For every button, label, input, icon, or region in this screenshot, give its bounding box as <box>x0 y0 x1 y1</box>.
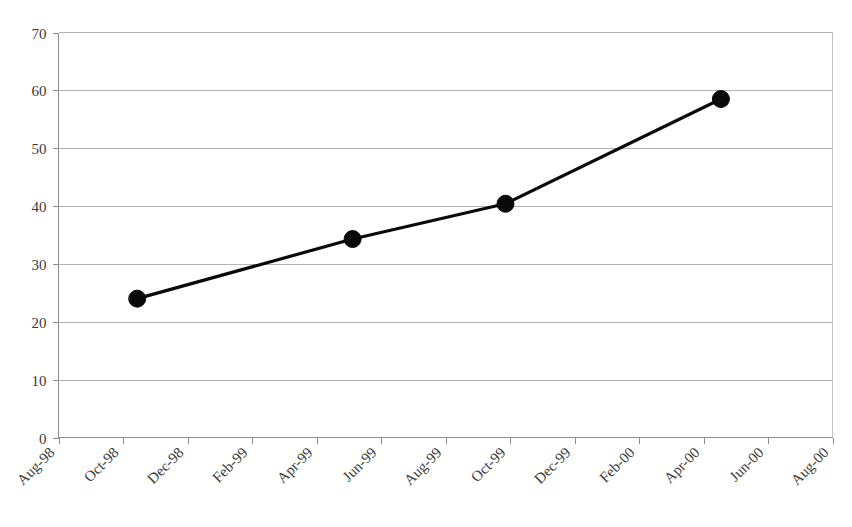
chart-background <box>0 0 852 527</box>
chart-canvas: 010203040506070 Aug-98Oct-98Dec-98Feb-99… <box>0 0 852 527</box>
data-point-marker <box>129 290 146 307</box>
y-axis-tick-label: 60 <box>32 83 47 99</box>
y-axis-tick-label: 20 <box>32 315 47 331</box>
y-axis-tick-label: 10 <box>32 373 47 389</box>
y-axis-tick-label: 70 <box>32 26 47 42</box>
y-axis-tick-label: 50 <box>32 141 47 157</box>
data-point-marker <box>712 91 729 108</box>
data-point-marker <box>344 231 361 248</box>
y-axis-tick-label: 30 <box>32 257 47 273</box>
y-axis-tick-label: 40 <box>32 199 47 215</box>
line-chart: 010203040506070 Aug-98Oct-98Dec-98Feb-99… <box>0 0 852 527</box>
data-point-marker <box>497 195 514 212</box>
